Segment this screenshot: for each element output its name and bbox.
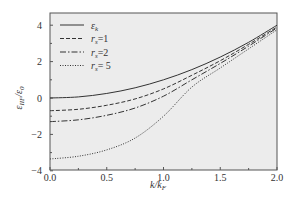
plot-area <box>50 13 277 170</box>
x-tick-label: 0.0 <box>44 172 57 183</box>
y-tick-label: 0 <box>37 93 42 104</box>
y-tick-label: −4 <box>31 165 42 176</box>
y-tick-label: −2 <box>31 129 42 140</box>
y-axis-label: εIIF/ε0 <box>13 86 26 110</box>
y-tick-label: 4 <box>37 20 42 31</box>
x-tick-label: 2.0 <box>271 172 284 183</box>
chart: 0.00.51.01.52.0 −4−2024 εkrs=1rs=2rs= 5 … <box>0 0 287 206</box>
x-tick-label: 1.5 <box>214 172 227 183</box>
x-tick-label: 0.5 <box>101 172 114 183</box>
y-tick-label: 2 <box>37 56 42 67</box>
